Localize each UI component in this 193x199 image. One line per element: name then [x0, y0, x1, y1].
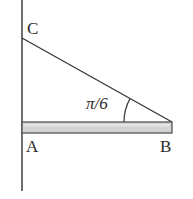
vertex-label-c: C: [27, 20, 38, 37]
angle-arc: [124, 99, 130, 122]
horizontal-beam: [22, 122, 172, 133]
angle-label: π/6: [86, 95, 108, 112]
beam-highlight: [24, 124, 170, 126]
vertex-label-a: A: [26, 138, 38, 155]
geometry-figure: C A B π/6: [0, 0, 193, 199]
vertex-label-b: B: [160, 138, 171, 155]
